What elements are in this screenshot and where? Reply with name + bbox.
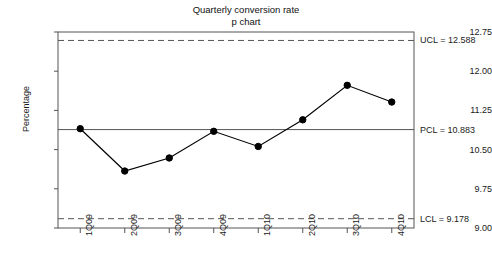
y-tick-label: 11.25 xyxy=(442,105,492,115)
x-tick-label: 2Q10 xyxy=(307,214,317,236)
y-axis-label: Percentage xyxy=(21,59,31,159)
x-tick-label: 3Q09 xyxy=(173,214,183,236)
x-tick-label: 4Q10 xyxy=(396,214,406,236)
data-point-marker xyxy=(389,99,395,105)
data-point-marker xyxy=(166,155,172,161)
data-point-marker xyxy=(300,117,306,123)
p-chart-figure: Quarterly conversion rate p chart Percen… xyxy=(0,0,492,277)
y-tick-label: 9.00 xyxy=(442,223,492,233)
y-axis-ticks xyxy=(54,32,58,228)
data-point-markers xyxy=(77,82,395,174)
x-axis-ticks xyxy=(80,228,392,233)
y-tick-label: 10.50 xyxy=(442,145,492,155)
chart-subtitle: p chart xyxy=(0,16,492,28)
x-tick-label: 1Q09 xyxy=(84,214,94,236)
y-tick-label: 9.75 xyxy=(442,184,492,194)
data-point-marker xyxy=(122,168,128,174)
x-tick-label: 1Q10 xyxy=(262,214,272,236)
x-tick-label: 2Q09 xyxy=(129,214,139,236)
x-tick-label: 4Q09 xyxy=(218,214,228,236)
x-tick-label: 3Q10 xyxy=(351,214,361,236)
data-point-marker xyxy=(77,125,83,131)
pcl-label: PCL = 10.883 xyxy=(420,125,475,135)
data-point-marker xyxy=(344,82,350,88)
series-polyline xyxy=(80,85,392,171)
chart-title-block: Quarterly conversion rate p chart xyxy=(0,4,492,28)
ucl-label: UCL = 12.588 xyxy=(420,35,475,45)
data-series-line xyxy=(80,85,392,171)
plot-area xyxy=(0,0,492,277)
data-point-marker xyxy=(255,143,261,149)
lcl-label: LCL = 9.178 xyxy=(420,214,469,224)
data-point-marker xyxy=(211,128,217,134)
y-tick-label: 12.00 xyxy=(442,66,492,76)
chart-title: Quarterly conversion rate xyxy=(0,4,492,16)
control-limit-lines xyxy=(58,40,414,218)
